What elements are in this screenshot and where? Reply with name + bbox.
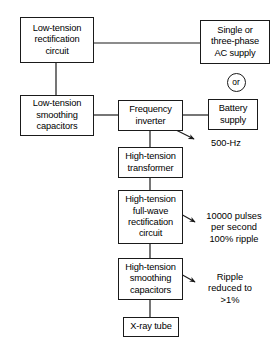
annotation-500hz: 500-Hz (198, 138, 254, 149)
node-x-ray-tube[interactable]: X-ray tube (123, 317, 179, 337)
annotation-pulses: 10000 pulses per second 100% ripple (192, 211, 276, 245)
node-high-tension-smoothing[interactable]: High-tension smoothing capacitors (118, 258, 183, 300)
node-high-tension-rectification[interactable]: High-tension full-wave rectification cir… (118, 190, 183, 244)
node-low-tension-smoothing[interactable]: Low-tension smoothing capacitors (20, 95, 94, 136)
annotation-ripple: Ripple reduced to >1% (194, 272, 266, 306)
node-low-tension-rectification[interactable]: Low-tension rectification circuit (20, 17, 94, 63)
node-battery-supply[interactable]: Battery supply (208, 99, 258, 130)
block-diagram: Low-tension rectification circuit Single… (0, 0, 280, 348)
node-frequency-inverter[interactable]: Frequency inverter (118, 100, 183, 131)
node-high-tension-transformer[interactable]: High-tension transformer (118, 147, 183, 178)
node-ac-supply[interactable]: Single or three-phase AC supply (200, 20, 270, 64)
or-badge: or (227, 73, 246, 92)
